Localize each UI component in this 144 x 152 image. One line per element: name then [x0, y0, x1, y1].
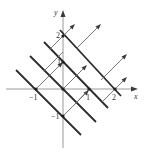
- diagram: x y −1 1 2 2 1 −1: [0, 0, 144, 152]
- point-y-2: [61, 34, 64, 37]
- level-line-c-minus-1: [16, 70, 81, 135]
- x-tick-label-1: 1: [86, 93, 90, 102]
- flow-arrow: [36, 64, 61, 89]
- point-x-minus-1: [34, 87, 37, 90]
- level-line-c-1: [44, 42, 108, 108]
- point-x-2: [113, 87, 116, 90]
- x-axis-label: x: [133, 92, 138, 101]
- level-lines: [16, 30, 121, 135]
- point-y-1: [61, 60, 64, 63]
- y-tick-label-1: 1: [57, 58, 61, 67]
- flow-arrow: [101, 56, 125, 80]
- point-x-1: [87, 87, 90, 90]
- flow-arrows: [36, 24, 127, 116]
- point-origin: [61, 87, 64, 90]
- flow-arrow: [76, 26, 99, 49]
- y-axis-label: y: [53, 8, 58, 17]
- x-tick-label-minus-1: −1: [29, 93, 38, 102]
- labels: x y −1 1 2 2 1 −1: [29, 8, 138, 121]
- point-y-minus-1: [61, 114, 64, 117]
- y-axis-arrow-icon: [61, 10, 66, 17]
- x-axis-arrow-icon: [131, 87, 138, 92]
- x-tick-label-2: 2: [112, 93, 116, 102]
- level-line-c-2: [60, 30, 121, 96]
- flow-arrow: [63, 67, 85, 89]
- y-tick-label-2: 2: [56, 31, 60, 40]
- y-tick-label-minus-1: −1: [51, 112, 60, 121]
